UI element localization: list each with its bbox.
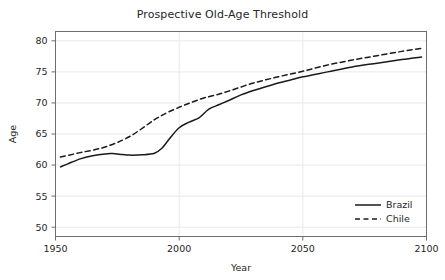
x-axis-label: Year [230,262,251,273]
x-axis-ticks: 1950200020502100 [43,237,438,254]
x-tick-label: 2100 [414,243,438,254]
y-tick-label: 65 [35,128,47,139]
y-axis-ticks: 50556065707580 [35,35,55,232]
legend-label-chile: Chile [386,213,410,224]
chart-legend: BrazilChile [355,199,413,224]
x-tick-label: 2050 [291,243,315,254]
y-tick-label: 60 [35,159,47,170]
y-axis-label: Age [7,125,18,144]
x-tick-label: 2000 [167,243,191,254]
series-line-brazil [60,57,421,167]
data-series [60,48,421,167]
chart-figure: Prospective Old-Age Threshold 5055606570… [0,0,445,280]
y-tick-label: 80 [35,35,47,46]
y-tick-label: 70 [35,97,47,108]
chart-plot: 50556065707580 1950200020502100 Age Year… [0,0,445,280]
x-tick-label: 1950 [43,243,67,254]
y-tick-label: 50 [35,222,47,233]
y-tick-label: 55 [35,191,47,202]
y-tick-label: 75 [35,66,47,77]
legend-label-brazil: Brazil [386,199,413,210]
